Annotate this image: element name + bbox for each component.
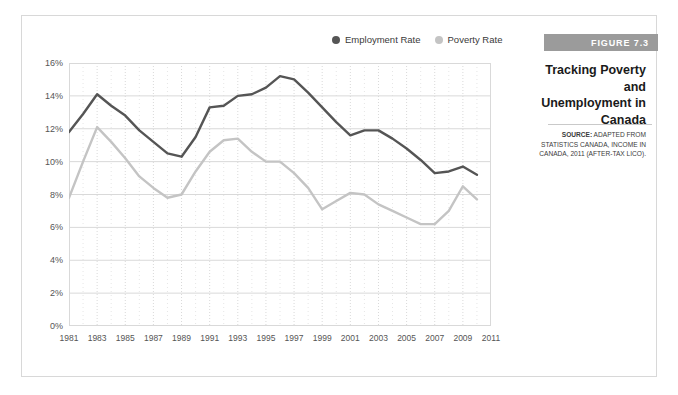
x-axis-tick-label: 1987 (144, 333, 163, 343)
legend-swatch-icon (332, 36, 340, 44)
x-axis-tick-label: 1997 (285, 333, 304, 343)
plot-svg (69, 63, 491, 326)
series-line (69, 76, 477, 175)
chart-legend: Employment RatePoverty Rate (332, 34, 502, 45)
plot-area: 0%2%4%6%8%10%12%14%16%198119831985198719… (69, 63, 491, 326)
y-axis-tick-label: 0% (50, 321, 63, 331)
x-axis-tick-label: 1999 (313, 333, 332, 343)
figure-number-band: FIGURE 7.3 (544, 34, 658, 51)
x-axis-tick-label: 1989 (172, 333, 191, 343)
y-axis-tick-label: 2% (50, 288, 63, 298)
figure-title: Tracking Poverty and Unemployment in Can… (536, 62, 652, 128)
x-axis-tick-label: 2009 (453, 333, 472, 343)
figure-number-label: FIGURE 7.3 (591, 38, 658, 48)
x-axis-tick-label: 2003 (369, 333, 388, 343)
x-axis-tick-label: 1985 (116, 333, 135, 343)
x-axis-tick-label: 2011 (482, 333, 500, 343)
y-axis-tick-label: 6% (50, 222, 63, 232)
figure-frame: Employment RatePoverty Rate 0%2%4%6%8%10… (21, 15, 657, 377)
y-axis-tick-label: 10% (45, 157, 63, 167)
source-prefix-label: SOURCE: (562, 131, 592, 138)
legend-label: Poverty Rate (448, 34, 503, 45)
y-axis-tick-label: 16% (45, 58, 63, 68)
x-axis-tick-label: 2007 (425, 333, 444, 343)
y-axis-tick-label: 8% (50, 190, 63, 200)
legend-swatch-icon (435, 36, 443, 44)
x-axis-tick-label: 1993 (228, 333, 247, 343)
x-axis-tick-label: 2005 (397, 333, 416, 343)
x-axis-tick-label: 1995 (256, 333, 275, 343)
x-axis-tick-label: 2001 (341, 333, 360, 343)
panel-divider (548, 124, 652, 125)
x-axis-tick-label: 1983 (88, 333, 107, 343)
legend-label: Employment Rate (345, 34, 421, 45)
figure-source: SOURCE: ADAPTED FROM STATISTICS CANADA, … (536, 130, 652, 159)
series-line (69, 127, 477, 224)
source-body-text: ADAPTED FROM STATISTICS CANADA, INCOME I… (539, 131, 646, 157)
legend-item: Employment Rate (332, 34, 421, 45)
x-axis-tick-label: 1991 (200, 333, 219, 343)
y-axis-tick-label: 14% (45, 91, 63, 101)
y-axis-tick-label: 12% (45, 124, 63, 134)
x-axis-tick-label: 1981 (60, 333, 79, 343)
side-panel: FIGURE 7.3 Tracking Poverty and Unemploy… (530, 16, 658, 378)
y-axis-tick-label: 4% (50, 255, 63, 265)
legend-item: Poverty Rate (435, 34, 503, 45)
chart-area: Employment RatePoverty Rate 0%2%4%6%8%10… (22, 16, 522, 378)
